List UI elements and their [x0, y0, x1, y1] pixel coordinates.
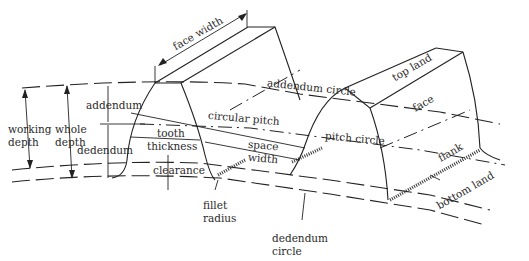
label-working-depth-2: depth: [8, 137, 39, 148]
fillet-radius-leader: [215, 180, 218, 190]
gear-nomenclature-diagram: face width addendum circle top land face…: [0, 0, 529, 261]
label-fillet-radius-1: fillet: [203, 200, 227, 211]
label-tooth-thickness-1: tooth: [157, 128, 185, 139]
label-dedendum: dedendum: [77, 145, 133, 156]
right-tooth-bottom-edge: [480, 148, 500, 160]
face-width-arrow-right: [238, 13, 247, 21]
working-depth-arrow-top: [22, 89, 28, 98]
label-clearance: clearance: [153, 165, 205, 176]
label-tooth-thickness-2: thickness: [147, 141, 197, 152]
label-working-depth-1: working: [8, 124, 52, 135]
working-depth-arrow-bottom: [27, 160, 33, 169]
dedendum-circle-line: [12, 176, 485, 225]
label-fillet-radius-2: radius: [203, 213, 237, 224]
label-dedendum-circle-2: circle: [272, 246, 302, 257]
label-addendum: addendum: [86, 100, 142, 111]
whole-depth-arrow-top: [64, 85, 70, 94]
right-tooth-back-top: [436, 48, 463, 52]
label-whole-depth-1: whole: [55, 124, 87, 135]
dedendum-circle-leader: [302, 193, 305, 220]
right-tooth-back-profile: [463, 52, 480, 148]
mid-fillet-hatch: [292, 148, 322, 162]
face-width-arrow-left: [158, 58, 167, 66]
label-space-width-2: width: [248, 152, 279, 165]
label-space-width-1: space: [248, 139, 279, 152]
label-dedendum-circle-1: dedendum: [272, 233, 328, 244]
working-depth-line: [12, 162, 490, 210]
